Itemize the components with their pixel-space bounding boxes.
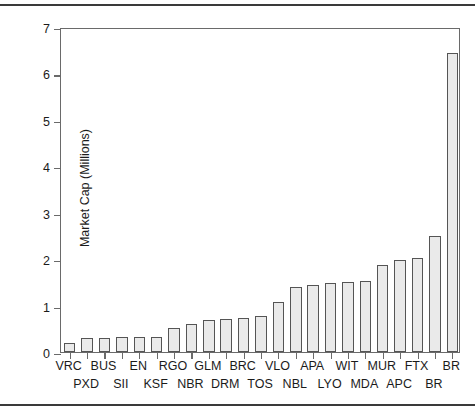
bar: [412, 258, 423, 352]
bar: [238, 318, 249, 352]
x-axis-tick-label: BRC: [229, 360, 255, 373]
x-axis-tick-label: SII: [113, 378, 128, 391]
x-axis-tick: [296, 352, 297, 359]
x-axis-tick: [400, 352, 401, 359]
x-axis-tick-label: APA: [300, 360, 324, 373]
x-axis-tick: [157, 352, 158, 359]
y-axis-tick-label: 6: [43, 69, 50, 82]
x-axis-tick: [191, 352, 192, 359]
bar: [99, 338, 110, 352]
x-axis-tick: [383, 352, 384, 359]
x-axis-tick: [209, 352, 210, 359]
bar: [64, 343, 75, 352]
bar: [377, 265, 388, 352]
bar-chart: Market Cap (Millions) 01234567 VRCPXDBUS…: [0, 0, 475, 406]
y-axis-tick: [54, 261, 61, 262]
x-axis-tick-label: BUS: [91, 360, 117, 373]
x-axis-tick: [278, 352, 279, 359]
bar: [186, 324, 197, 352]
bar: [273, 302, 284, 352]
bar: [394, 260, 405, 352]
top-divider-rule: [0, 4, 475, 6]
x-axis-tick: [174, 352, 175, 359]
x-axis-tick-label: MDA: [350, 378, 378, 391]
x-axis-tick: [348, 352, 349, 359]
x-axis-tick-label: TOS: [247, 378, 272, 391]
x-axis-tick: [104, 352, 105, 359]
x-axis-tick-label: BR: [443, 360, 460, 373]
x-axis-tick: [226, 352, 227, 359]
x-axis-tick-label: EN: [130, 360, 147, 373]
y-axis-tick-label: 2: [43, 255, 50, 268]
bar: [220, 319, 231, 352]
bar: [290, 287, 301, 352]
x-axis-tick: [331, 352, 332, 359]
y-axis-tick: [54, 354, 61, 355]
y-axis-tick: [54, 29, 61, 30]
x-axis-tick: [261, 352, 262, 359]
y-axis-tick: [54, 122, 61, 123]
x-axis-tick-label: RGO: [159, 360, 187, 373]
y-axis-tick-label: 0: [43, 348, 50, 361]
x-axis-tick-label: NBL: [283, 378, 307, 391]
x-axis-tick-label: LYO: [318, 378, 342, 391]
x-axis-tick: [70, 352, 71, 359]
bar: [342, 282, 353, 352]
x-axis-tick: [122, 352, 123, 359]
bar: [447, 53, 458, 352]
bar: [203, 320, 214, 352]
x-axis-tick-label: WIT: [335, 360, 358, 373]
bars-layer: [61, 29, 459, 352]
x-axis-tick-label: APC: [386, 378, 412, 391]
y-axis-tick-label: 4: [43, 162, 50, 175]
y-axis-tick-label: 7: [43, 23, 50, 36]
x-axis-tick-label: MUR: [368, 360, 396, 373]
x-axis-tick-label: DRM: [211, 378, 239, 391]
x-axis-tick-label: PXD: [73, 378, 99, 391]
bar: [429, 236, 440, 352]
y-axis-tick: [54, 215, 61, 216]
y-axis-tick: [54, 308, 61, 309]
y-axis-tick-label: 5: [43, 116, 50, 129]
x-axis-tick: [452, 352, 453, 359]
bar: [116, 337, 127, 352]
x-axis-tick-label: KSF: [143, 378, 167, 391]
x-axis-tick: [365, 352, 366, 359]
y-axis-tick-label: 1: [43, 301, 50, 314]
x-axis-tick: [435, 352, 436, 359]
x-axis-tick: [244, 352, 245, 359]
x-axis-tick-label: GLM: [194, 360, 221, 373]
bar: [134, 337, 145, 352]
bar: [151, 337, 162, 352]
x-axis-tick: [87, 352, 88, 359]
bar: [168, 328, 179, 352]
x-axis-tick-label: FTX: [405, 360, 429, 373]
y-axis-tick: [54, 168, 61, 169]
bar: [255, 316, 266, 352]
x-axis-tick-label: VRC: [55, 360, 81, 373]
y-axis-tick: [54, 75, 61, 76]
x-axis-tick: [313, 352, 314, 359]
bar: [307, 285, 318, 352]
x-axis-tick-label: VLO: [265, 360, 290, 373]
x-axis-tick-label: BR: [425, 378, 442, 391]
bar: [325, 283, 336, 352]
x-axis-tick-label: NBR: [177, 378, 203, 391]
y-axis-tick-label: 3: [43, 208, 50, 221]
bar: [360, 281, 371, 353]
x-axis-tick: [418, 352, 419, 359]
x-axis-tick: [139, 352, 140, 359]
plot-area: Market Cap (Millions) 01234567: [60, 28, 460, 353]
bar: [81, 338, 92, 352]
